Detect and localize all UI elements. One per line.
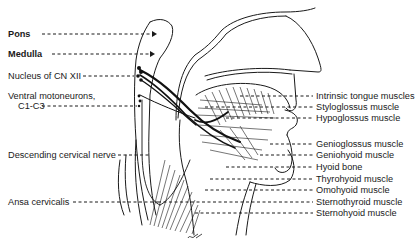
label-styloglossus: Styloglossus muscle [316, 102, 399, 112]
label-descending-cervical-nerve: Descending cervical nerve [8, 150, 116, 160]
label-genioglossus: Genioglossus muscle [316, 139, 403, 149]
tongue-hatching [196, 87, 275, 160]
left-arrowheads [150, 31, 157, 57]
right-leaders [158, 96, 313, 213]
label-geniohyoid: Geniohyoid muscle [316, 150, 394, 160]
label-omohyoid: Omohyoid muscle [316, 185, 390, 195]
label-hypoglossus: Hypoglossus muscle [316, 113, 400, 123]
nerves [140, 70, 240, 205]
label-pons: Pons [8, 29, 30, 39]
brainstem-outline [149, 19, 173, 215]
label-thyrohyoid: Thyrohyoid muscle [316, 174, 393, 184]
anatomy-diagram: Pons Medulla Nucleus of CN XII Ventral m… [0, 0, 420, 251]
left-leaders [42, 34, 158, 202]
label-medulla: Medulla [8, 49, 42, 59]
label-nucleus-cn-xii: Nucleus of CN XII [8, 71, 81, 81]
label-ventral-motoneurons: Ventral motoneurons, [8, 91, 95, 101]
artist-signature [188, 234, 202, 238]
label-sternothyroid: Sternothyroid muscle [316, 197, 402, 207]
label-sternohyoid: Sternohyoid muscle [316, 208, 397, 218]
label-ansa-cervicalis: Ansa cervicalis [8, 197, 69, 207]
label-c1-c3: C1-C3 [18, 101, 45, 111]
label-hyoid-bone: Hyoid bone [316, 162, 362, 172]
label-intrinsic-tongue-muscles: Intrinsic tongue muscles [316, 91, 415, 101]
